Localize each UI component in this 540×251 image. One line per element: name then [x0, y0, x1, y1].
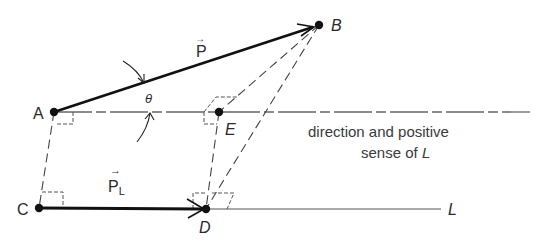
- point-E: [215, 108, 223, 116]
- right-angle-marker-D-right: [212, 193, 234, 209]
- vector-P: [54, 27, 313, 112]
- point-C: [35, 204, 43, 212]
- point-D: [202, 205, 210, 213]
- line-L-label: L: [448, 201, 457, 218]
- annotation-line1: direction and positive: [308, 123, 449, 140]
- point-B: [315, 21, 323, 29]
- right-angle-marker-E-bottom: [204, 112, 217, 124]
- vector-PL-main: P: [108, 178, 119, 195]
- annotation-line2: sense of L: [361, 144, 430, 161]
- right-angle-marker-A: [57, 112, 73, 124]
- angle-arrow-lower: [137, 113, 150, 142]
- vector-projection-diagram: A B C D E → P → PL θ L direction and pos…: [0, 0, 540, 251]
- label-D: D: [199, 219, 211, 236]
- label-B: B: [331, 17, 342, 34]
- projection-line-E-D: [206, 112, 219, 209]
- vector-P-label: P: [196, 43, 207, 60]
- projection-line-B-E: [219, 25, 319, 112]
- annotation-line2-italic: L: [422, 144, 430, 161]
- label-C: C: [17, 201, 29, 218]
- projection-line-B-D: [206, 25, 319, 209]
- vector-PL-arrow-symbol: →: [110, 164, 121, 176]
- angle-theta-label: θ: [145, 91, 152, 106]
- annotation-line2-prefix: sense of: [361, 144, 422, 161]
- point-A: [50, 108, 58, 116]
- projection-line-A-C: [39, 112, 54, 208]
- label-A: A: [33, 105, 44, 122]
- right-angle-marker-C: [42, 192, 63, 208]
- label-E: E: [225, 121, 236, 138]
- vector-PL: [39, 208, 203, 209]
- vector-PL-label: PL: [108, 178, 125, 197]
- vector-PL-subscript: L: [119, 185, 125, 197]
